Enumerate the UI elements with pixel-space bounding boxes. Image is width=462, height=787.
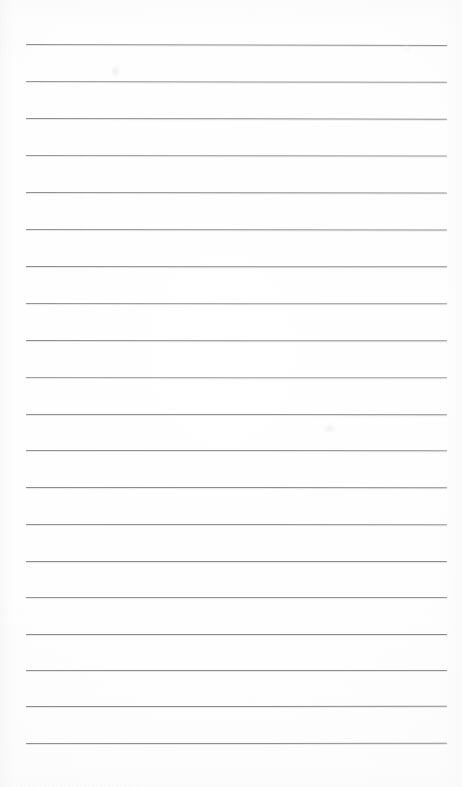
scanned-page xyxy=(0,0,462,787)
page-writing-surface[interactable] xyxy=(0,0,462,787)
